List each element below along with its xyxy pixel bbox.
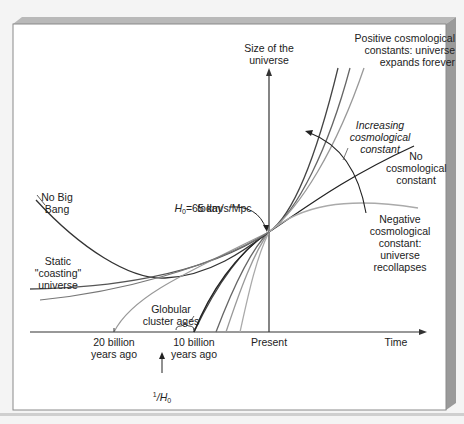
x-tick-label-ten-billion: 10 billion years ago [164,336,224,360]
frame-bevel-right [446,17,456,410]
no-constant-label: No cosmological constant [386,150,446,186]
x-tick-label-twenty-billion: 20 billion years ago [84,336,144,360]
static-coasting-label: Static "coasting" universe [28,255,88,291]
x-tick-label-present: Present [244,336,294,348]
h0-symbol: H [174,202,182,214]
y-axis-label: Size of the universe [230,42,308,66]
x-axis-label: Time [378,336,414,348]
negative-constant-label: Negative cosmological constant: universe… [363,213,437,273]
positive-constants-label: Positive cosmological constants: univers… [335,32,455,68]
inverse-h0-label: 1/H0 [142,377,182,407]
globular-cluster-label: Globular cluster ages [136,303,206,327]
inverse-h0-symbol: /H [157,391,168,403]
cosmology-diagram: Size of the universe Positive cosmologic… [0,0,464,424]
inverse-h0-subscript: 0 [167,397,171,404]
frame-bottom-shadow [0,413,464,416]
h0-today-label: today [190,202,230,214]
no-big-bang-label: No Big Bang [33,191,81,215]
frame-bevel-top [13,17,456,24]
